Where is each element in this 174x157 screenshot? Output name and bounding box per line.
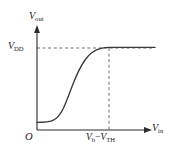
y-axis-label: Vout <box>29 11 44 21</box>
vth-subscript: TH <box>106 136 115 143</box>
y-axis-tick-label-vdd: VDD <box>8 41 24 51</box>
x-axis-tick-label-vb-minus-vth: Vb−VTH <box>86 133 115 143</box>
origin-label: O <box>25 132 33 143</box>
x-axis-arrow-icon <box>144 127 152 133</box>
transfer-curve <box>37 47 155 122</box>
chart-figure: Vout VDD Vin O Vb−VTH <box>0 0 174 157</box>
x-axis-label: Vin <box>152 123 163 133</box>
vb-symbol: V <box>86 132 92 142</box>
y-axis-arrow-icon <box>34 25 40 33</box>
vdd-subscript: DD <box>14 45 24 52</box>
vb-subscript: b <box>92 136 95 143</box>
y-axis-label-subscript: out <box>35 15 43 22</box>
x-axis-label-subscript: in <box>158 127 163 134</box>
